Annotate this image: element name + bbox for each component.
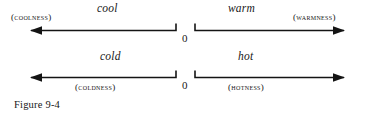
hot-term: hot: [238, 50, 253, 62]
lower-zero-label: 0: [182, 79, 188, 91]
coldness-label: (COLDNESS): [75, 82, 116, 92]
figure-9-4: (COOLNESS) cool warm (WARMNESS) 0 cold h…: [0, 0, 369, 117]
figure-caption: Figure 9-4: [14, 99, 60, 110]
cold-term: cold: [100, 50, 121, 62]
hotness-label: (HOTNESS): [228, 82, 264, 92]
